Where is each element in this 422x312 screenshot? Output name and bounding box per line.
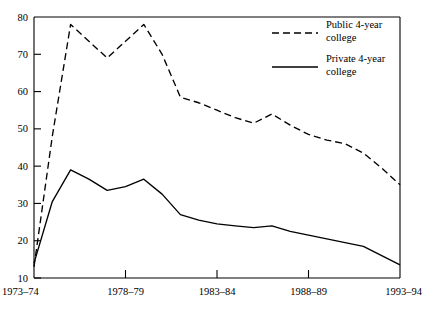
x-tick-label-4: 1993–94 [385, 286, 422, 297]
y-tick-label-20: 20 [18, 235, 29, 246]
chart-container: 1020304050607080 1973–741978–791983–8419… [0, 0, 422, 312]
chart-background [0, 0, 422, 312]
legend-label-private-line2: college [326, 66, 357, 77]
y-tick-label-50: 50 [18, 123, 29, 134]
y-tick-label-10: 10 [18, 273, 29, 284]
legend-label-public-line1: Public 4-year [326, 19, 383, 30]
y-tick-label-40: 40 [18, 161, 29, 172]
legend-label-public-line2: college [326, 32, 357, 43]
y-tick-label-60: 60 [18, 86, 29, 97]
x-tick-label-2: 1983–84 [199, 286, 237, 297]
x-tick-label-3: 1988–89 [290, 286, 327, 297]
y-tick-label-30: 30 [18, 198, 29, 209]
line-chart: 1020304050607080 1973–741978–791983–8419… [0, 0, 422, 312]
legend-label-private-line1: Private 4-year [326, 53, 386, 64]
x-tick-label-0: 1973–74 [2, 286, 40, 297]
x-tick-label-1: 1978–79 [107, 286, 144, 297]
y-tick-label-70: 70 [18, 49, 29, 60]
y-tick-label-80: 80 [18, 12, 29, 23]
